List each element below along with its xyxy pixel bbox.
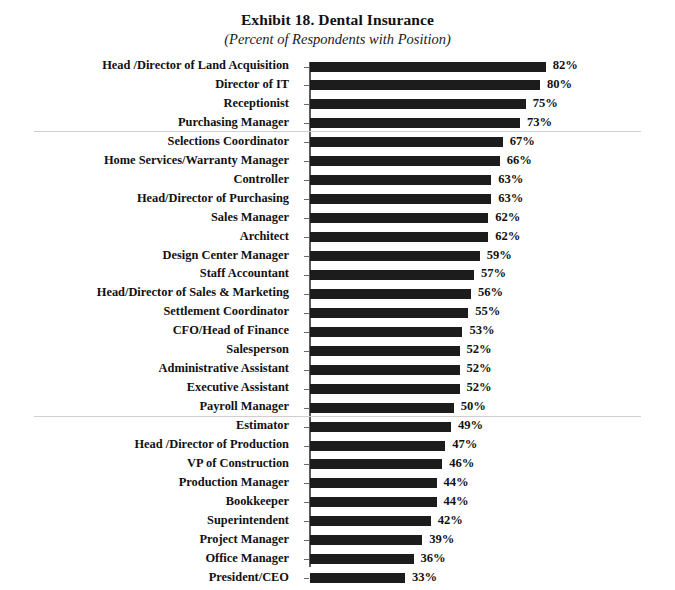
category-label: Sales Manager xyxy=(0,208,289,226)
category-label: CFO/Head of Finance xyxy=(0,321,289,339)
axis-tick xyxy=(304,275,309,276)
axis-tick xyxy=(304,408,309,409)
bar-value-label: 42% xyxy=(438,511,463,529)
bar xyxy=(310,573,405,583)
axis-tick xyxy=(304,256,309,257)
category-label: Head/Director of Purchasing xyxy=(0,189,289,207)
category-label: Head/Director of Sales & Marketing xyxy=(0,283,289,301)
bar-value-label: 50% xyxy=(461,397,486,415)
category-label: VP of Construction xyxy=(0,454,289,472)
category-label: Head /Director of Production xyxy=(0,435,289,453)
axis-tick xyxy=(304,351,309,352)
category-label: Purchasing Manager xyxy=(0,113,289,131)
category-label: Estimator xyxy=(0,416,289,434)
bar-value-label: 36% xyxy=(421,549,446,567)
bar xyxy=(310,308,468,318)
axis-tick xyxy=(304,370,309,371)
axis-tick xyxy=(304,427,309,428)
axis-tick xyxy=(304,123,309,124)
bar xyxy=(310,365,460,375)
group-separator-line xyxy=(34,416,641,417)
category-label: Bookkeeper xyxy=(0,492,289,510)
bar-value-label: 67% xyxy=(510,132,535,150)
bar xyxy=(310,384,460,394)
bar-value-label: 62% xyxy=(495,227,520,245)
axis-tick xyxy=(304,67,309,68)
bar-value-label: 49% xyxy=(458,416,483,434)
bar-value-label: 55% xyxy=(475,302,500,320)
category-label: Administrative Assistant xyxy=(0,359,289,377)
axis-tick xyxy=(304,294,309,295)
axis-tick xyxy=(304,578,309,579)
category-label: Production Manager xyxy=(0,473,289,491)
bar-value-label: 52% xyxy=(467,340,492,358)
bar-value-label: 75% xyxy=(533,94,558,112)
axis-tick xyxy=(304,389,309,390)
bar-value-label: 80% xyxy=(547,75,572,93)
chart-container: Exhibit 18. Dental Insurance (Percent of… xyxy=(0,0,675,590)
category-label: Office Manager xyxy=(0,549,289,567)
bar xyxy=(310,441,445,451)
bar-value-label: 62% xyxy=(495,208,520,226)
bar-value-label: 66% xyxy=(507,151,532,169)
category-label: Design Center Manager xyxy=(0,246,289,264)
page-title: Exhibit 18. Dental Insurance xyxy=(0,10,675,29)
bar-row: President/CEO33% xyxy=(0,570,675,589)
bar-value-label: 52% xyxy=(467,359,492,377)
axis-tick xyxy=(304,199,309,200)
bar xyxy=(310,403,454,413)
bar-value-label: 47% xyxy=(452,435,477,453)
axis-tick xyxy=(304,483,309,484)
category-label: Project Manager xyxy=(0,530,289,548)
category-label: Selections Coordinator xyxy=(0,132,289,150)
axis-tick xyxy=(304,161,309,162)
category-label: Controller xyxy=(0,170,289,188)
axis-tick xyxy=(304,142,309,143)
bar-value-label: 44% xyxy=(444,492,469,510)
category-label: Architect xyxy=(0,227,289,245)
axis-tick xyxy=(304,180,309,181)
bar-value-label: 53% xyxy=(469,321,494,339)
bar xyxy=(310,62,546,72)
axis-tick xyxy=(304,540,309,541)
bar-value-label: 33% xyxy=(412,568,437,586)
bar-value-label: 63% xyxy=(498,189,523,207)
bar-value-label: 44% xyxy=(444,473,469,491)
bar-value-label: 73% xyxy=(527,113,552,131)
bar xyxy=(310,213,488,223)
bar xyxy=(310,346,460,356)
axis-tick xyxy=(304,464,309,465)
category-label: President/CEO xyxy=(0,568,289,586)
bar-value-label: 39% xyxy=(429,530,454,548)
category-label: Settlement Coordinator xyxy=(0,302,289,320)
chart-title-block: Exhibit 18. Dental Insurance (Percent of… xyxy=(0,10,675,49)
category-label: Superintendent xyxy=(0,511,289,529)
axis-tick xyxy=(304,104,309,105)
bar xyxy=(310,422,451,432)
bar xyxy=(310,289,471,299)
axis-tick xyxy=(304,446,309,447)
bar xyxy=(310,156,500,166)
bar xyxy=(310,497,437,507)
bar xyxy=(310,516,431,526)
axis-tick xyxy=(304,85,309,86)
bar-value-label: 56% xyxy=(478,283,503,301)
axis-tick xyxy=(304,313,309,314)
category-label: Home Services/Warranty Manager xyxy=(0,151,289,169)
axis-tick xyxy=(304,559,309,560)
bar xyxy=(310,270,474,280)
bar xyxy=(310,535,422,545)
plot-area: Head /Director of Land Acquisition82%Dir… xyxy=(0,58,675,573)
bar xyxy=(310,194,491,204)
bar xyxy=(310,99,526,109)
bar xyxy=(310,459,442,469)
axis-tick xyxy=(304,521,309,522)
bar xyxy=(310,327,462,337)
category-label: Payroll Manager xyxy=(0,397,289,415)
group-separator-line xyxy=(34,131,641,132)
axis-tick xyxy=(304,237,309,238)
bar xyxy=(310,175,491,185)
bar-value-label: 57% xyxy=(481,264,506,282)
bar xyxy=(310,118,520,128)
bar xyxy=(310,80,540,90)
